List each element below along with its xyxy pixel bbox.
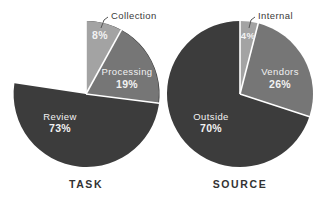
task-chart-title: TASK — [69, 178, 103, 190]
task-pie: 8% Collection Processing 19% Review 73% … — [14, 10, 160, 190]
source-pie: 4% Internal Vendors 26% Outside 70% SOUR… — [167, 10, 313, 190]
task-review-pct: 73% — [49, 122, 71, 134]
task-collection-pct: 8% — [92, 29, 108, 41]
task-processing-pct: 19% — [116, 78, 138, 90]
source-vendors-pct: 26% — [269, 78, 291, 90]
source-internal-pct: 4% — [241, 30, 256, 41]
source-internal-label: Internal — [258, 10, 293, 21]
task-collection-label: Collection — [111, 10, 157, 21]
task-review-label: Review — [43, 111, 77, 122]
source-outside-label: Outside — [193, 111, 229, 122]
pie-charts-figure: 8% Collection Processing 19% Review 73% … — [0, 0, 323, 199]
source-outside-pct: 70% — [200, 122, 222, 134]
source-chart-title: SOURCE — [213, 178, 268, 190]
task-processing-label: Processing — [102, 66, 153, 77]
source-vendors-label: Vendors — [261, 66, 299, 77]
